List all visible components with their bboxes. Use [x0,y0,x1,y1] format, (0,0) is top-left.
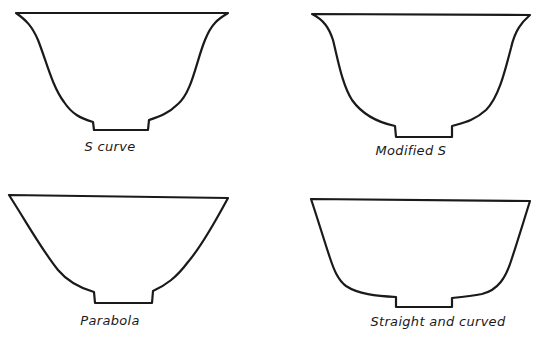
diagram-svg [0,0,537,338]
bowl-shapes-diagram: S curve Modified S Parabola Straight and… [0,0,537,338]
bowl-outline-s-curve [16,13,228,130]
bowl-outline-parabola [9,195,228,303]
bowl-outline-modified-s [312,14,530,137]
bowl-outline-straight-and-curved [311,199,530,307]
label-modified-s: Modified S [376,143,447,158]
label-parabola: Parabola [80,313,139,328]
label-s-curve: S curve [85,139,136,154]
label-straight-and-curved: Straight and curved [371,314,506,329]
